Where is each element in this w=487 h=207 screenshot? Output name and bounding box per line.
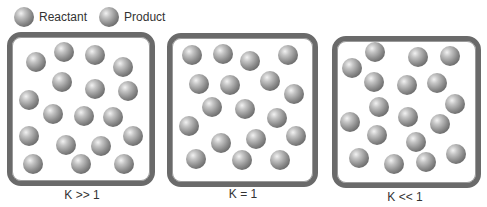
molecule-sphere-icon — [446, 144, 466, 164]
molecule-sphere-icon — [286, 126, 306, 146]
molecule-sphere-icon — [406, 132, 426, 152]
molecule-sphere-icon — [445, 94, 465, 114]
product-sphere-icon — [99, 7, 119, 27]
molecule-sphere-icon — [43, 104, 63, 124]
molecule-sphere-icon — [85, 45, 105, 65]
molecule-sphere-icon — [267, 108, 287, 128]
molecule-sphere-icon — [440, 46, 460, 66]
molecule-sphere-icon — [19, 126, 39, 146]
molecule-sphere-icon — [284, 84, 304, 104]
molecule-sphere-icon — [342, 58, 362, 78]
molecule-sphere-icon — [240, 51, 260, 71]
reactant-sphere-icon — [14, 7, 34, 27]
panel-caption: K >> 1 — [22, 188, 142, 202]
molecule-sphere-icon — [19, 90, 39, 110]
molecule-sphere-icon — [56, 135, 76, 155]
panel-caption: K = 1 — [183, 187, 303, 201]
molecule-sphere-icon — [91, 136, 111, 156]
molecule-sphere-icon — [427, 73, 447, 93]
molecule-sphere-icon — [118, 81, 138, 101]
molecule-sphere-icon — [232, 150, 252, 170]
molecule-sphere-icon — [189, 74, 209, 94]
molecule-sphere-icon — [270, 150, 290, 170]
molecule-sphere-icon — [235, 99, 255, 119]
molecule-sphere-icon — [123, 126, 143, 146]
panel-caption: K << 1 — [345, 190, 465, 204]
molecule-sphere-icon — [113, 57, 133, 77]
molecule-sphere-icon — [369, 97, 389, 117]
molecule-sphere-icon — [103, 107, 123, 127]
molecule-sphere-icon — [416, 152, 436, 172]
molecule-sphere-icon — [211, 133, 231, 153]
molecule-sphere-icon — [54, 42, 74, 62]
molecule-sphere-icon — [52, 72, 72, 92]
molecule-sphere-icon — [364, 72, 384, 92]
molecule-sphere-icon — [367, 125, 387, 145]
legend: Reactant Product — [14, 6, 177, 28]
molecule-sphere-icon — [220, 75, 240, 95]
molecule-sphere-icon — [26, 52, 46, 72]
molecule-sphere-icon — [278, 45, 298, 65]
molecule-sphere-icon — [430, 114, 450, 134]
molecule-sphere-icon — [398, 107, 418, 127]
molecule-sphere-icon — [202, 97, 222, 117]
molecule-sphere-icon — [71, 154, 91, 174]
molecule-sphere-icon — [74, 106, 94, 126]
molecule-sphere-icon — [85, 79, 105, 99]
legend-item-product: Product — [99, 7, 165, 27]
molecule-sphere-icon — [114, 154, 134, 174]
molecule-sphere-icon — [260, 71, 280, 91]
molecule-sphere-icon — [408, 47, 428, 67]
molecule-sphere-icon — [179, 116, 199, 136]
legend-label-product: Product — [124, 10, 165, 24]
molecule-sphere-icon — [213, 44, 233, 64]
molecule-sphere-icon — [186, 149, 206, 169]
legend-label-reactant: Reactant — [39, 10, 87, 24]
molecule-sphere-icon — [365, 42, 385, 62]
molecule-sphere-icon — [182, 45, 202, 65]
legend-item-reactant: Reactant — [14, 7, 87, 27]
molecule-sphere-icon — [23, 154, 43, 174]
molecule-sphere-icon — [384, 154, 404, 174]
molecule-sphere-icon — [340, 112, 360, 132]
molecule-sphere-icon — [349, 148, 369, 168]
molecule-sphere-icon — [397, 75, 417, 95]
molecule-sphere-icon — [246, 129, 266, 149]
